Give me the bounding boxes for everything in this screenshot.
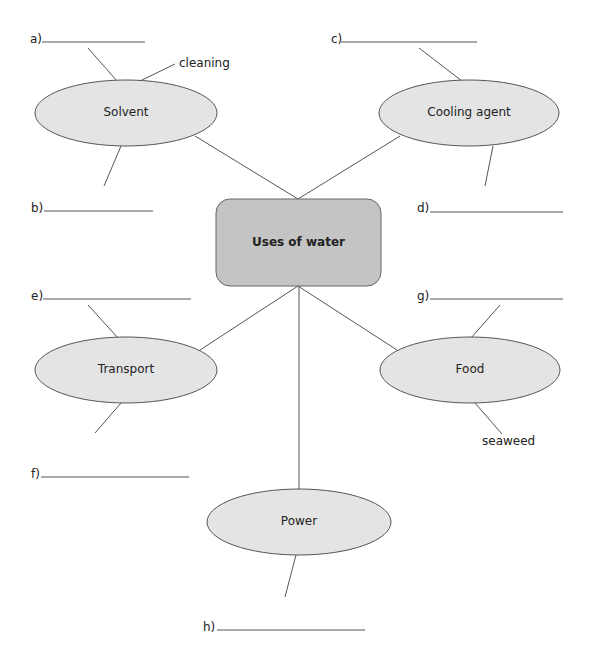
example-seaweed: seaweed: [482, 434, 535, 448]
node-label-cooling-agent: Cooling agent: [379, 105, 559, 119]
answer-letter-h: h): [203, 620, 215, 634]
connector-solvent: [195, 136, 298, 199]
node-label-food: Food: [380, 362, 560, 376]
answer-letter-f: f): [31, 467, 40, 481]
connector-food: [298, 286, 397, 350]
answer-letter-e: e): [31, 289, 43, 303]
answer-letter-d: d): [417, 201, 429, 215]
node-label-transport: Transport: [35, 362, 217, 376]
answer-letter-c: c): [331, 32, 342, 46]
center-label: Uses of water: [216, 235, 381, 249]
connector-transport: [200, 286, 298, 350]
answer-letter-b: b): [31, 201, 43, 215]
answer-letter-g: g): [417, 289, 429, 303]
node-label-power: Power: [207, 514, 391, 528]
node-label-solvent: Solvent: [35, 105, 217, 119]
connector-cooling: [298, 136, 400, 199]
example-cleaning: cleaning: [179, 56, 230, 70]
answer-letter-a: a): [30, 32, 42, 46]
mind-map-diagram: [0, 0, 591, 664]
